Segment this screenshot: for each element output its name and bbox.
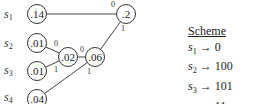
code: 0 (215, 40, 221, 54)
node-probability: .01 (30, 65, 44, 77)
node-probability: .04 (30, 93, 44, 104)
arrow-icon: → (200, 40, 212, 54)
scheme-row-s4: s4 → 11 (188, 99, 233, 104)
node-probability: .06 (88, 51, 102, 63)
arrow-icon: → (200, 59, 212, 73)
tree-node: .14 (28, 5, 47, 24)
tree-node: .2 (117, 5, 136, 24)
tree-node: .01 (28, 34, 47, 53)
edge-bit-label: 1 (121, 24, 125, 33)
tree-edge (101, 22, 121, 50)
edge-bit-label: 0 (54, 39, 58, 48)
symbol-label: s4 (4, 90, 13, 104)
scheme-row-s1: s1 → 0 (188, 40, 233, 60)
edge-bit-label: 0 (111, 0, 115, 9)
symbol-label: s3 (4, 63, 13, 78)
tree-node: .04 (28, 90, 47, 105)
tree-edge (45, 63, 88, 94)
scheme-table: Scheme s1 → 0 s2 → 100 s3 → 101 s4 → 11 (188, 24, 233, 104)
symbol-label: s2 (4, 36, 13, 51)
scheme-row-s3: s3 → 101 (188, 79, 233, 99)
code: 101 (215, 79, 233, 93)
edge-bit-label: 1 (54, 65, 58, 74)
symbol-label: s1 (4, 7, 13, 22)
arrow-icon: → (200, 99, 212, 104)
tree-node: .06 (86, 48, 105, 67)
tree-node: .02 (59, 48, 78, 67)
edge-bit-label: 0 (80, 45, 84, 54)
edge-bit-label: 1 (87, 67, 91, 76)
node-probability: .01 (30, 37, 44, 49)
node-probability: .2 (122, 8, 130, 20)
scheme-title: Scheme (188, 24, 233, 40)
code: 11 (215, 99, 227, 104)
code: 100 (215, 59, 233, 73)
node-probability: .02 (61, 51, 75, 63)
arrow-icon: → (200, 79, 212, 93)
tree-node: .01 (28, 62, 47, 81)
scheme-row-s2: s2 → 100 (188, 59, 233, 79)
node-probability: .14 (30, 8, 44, 20)
